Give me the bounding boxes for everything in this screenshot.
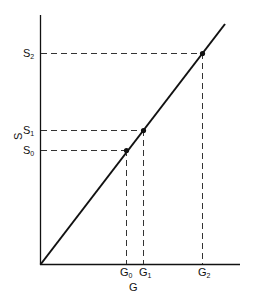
x-axis-label: G — [129, 281, 138, 293]
x-tick-g1: G1 — [139, 266, 152, 279]
y-tick-s1: S1 — [23, 124, 34, 137]
point-p2 — [200, 51, 205, 56]
relation-line — [41, 24, 226, 265]
y-tick-s0: S0 — [23, 144, 34, 157]
point-p1 — [141, 128, 146, 133]
x-tick-g0: G0 — [120, 266, 133, 279]
x-tick-g2: G2 — [198, 266, 211, 279]
y-tick-s2: S2 — [23, 47, 34, 60]
diagram-canvas: S2 S1 S0 S G0 G1 G2 G — [0, 0, 254, 302]
y-axis-label: S — [12, 133, 24, 140]
point-p0 — [124, 148, 129, 153]
